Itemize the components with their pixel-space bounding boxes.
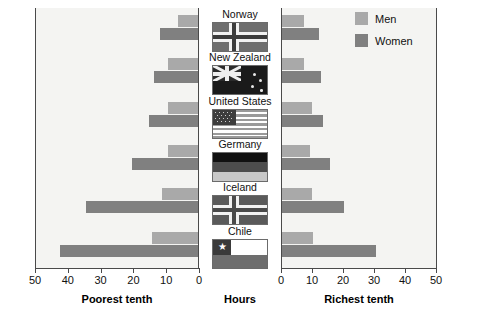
bar-row-chile-right xyxy=(282,225,436,268)
tick-left-20 xyxy=(133,268,134,273)
bar-women-new-zealand-right xyxy=(282,71,321,83)
bar-men-new-zealand-left xyxy=(168,58,198,70)
axis-title-poorest-tenth: Poorest tenth xyxy=(35,293,199,305)
country-block-germany: Germany xyxy=(199,138,281,182)
tick-right-0 xyxy=(281,268,282,273)
country-block-norway: Norway xyxy=(199,8,281,52)
bar-men-norway-right xyxy=(282,15,304,27)
bar-men-germany-right xyxy=(282,145,310,157)
bar-women-chile-left xyxy=(60,245,198,257)
legend-item-men: Men xyxy=(355,12,413,25)
bar-men-iceland-left xyxy=(162,188,198,200)
ticklabel-left-40: 40 xyxy=(53,274,83,286)
tick-right-30 xyxy=(374,268,375,273)
bar-men-chile-right xyxy=(282,232,313,244)
ticklabel-right-50: 50 xyxy=(421,274,451,286)
axis-line-left xyxy=(35,268,199,269)
bar-women-new-zealand-left xyxy=(154,71,198,83)
tick-left-40 xyxy=(68,268,69,273)
legend-item-women: Women xyxy=(355,34,413,47)
tick-left-30 xyxy=(101,268,102,273)
legend-swatch-women-icon xyxy=(355,34,368,47)
bar-row-iceland-left xyxy=(36,181,198,224)
bar-women-iceland-right xyxy=(282,201,344,213)
bar-row-united-states-left xyxy=(36,95,198,138)
tick-right-40 xyxy=(405,268,406,273)
bar-men-united-states-right xyxy=(282,102,312,114)
bar-women-germany-left xyxy=(132,158,198,170)
flag-iceland-icon xyxy=(212,195,268,225)
bar-row-chile-left xyxy=(36,225,198,268)
axis-title-richest-tenth: Richest tenth xyxy=(281,293,437,305)
bar-row-iceland-right xyxy=(282,181,436,224)
country-label-germany: Germany xyxy=(199,138,281,150)
bar-women-united-states-left xyxy=(149,115,198,127)
legend: Men Women xyxy=(355,12,413,56)
country-center-column: Norway New Zealand United States xyxy=(199,8,281,268)
tick-left-0 xyxy=(199,268,200,273)
ticklabel-left-50: 50 xyxy=(20,274,50,286)
tick-right-10 xyxy=(312,268,313,273)
bar-women-iceland-left xyxy=(86,201,198,213)
flag-new-zealand-icon xyxy=(212,65,268,95)
country-label-chile: Chile xyxy=(199,225,281,237)
bar-women-norway-right xyxy=(282,28,319,40)
chart-root: Norway New Zealand United States xyxy=(0,0,482,315)
flag-norway-icon xyxy=(212,22,268,52)
legend-swatch-men-icon xyxy=(355,12,368,25)
tick-left-10 xyxy=(166,268,167,273)
ticklabel-left-0: 0 xyxy=(184,274,214,286)
tick-left-50 xyxy=(35,268,36,273)
bar-row-germany-right xyxy=(282,138,436,181)
panel-poorest-tenth xyxy=(35,8,199,268)
country-block-new-zealand: New Zealand xyxy=(199,51,281,95)
bar-row-united-states-right xyxy=(282,95,436,138)
flag-germany-icon xyxy=(212,152,268,182)
flag-united-states-icon xyxy=(212,109,268,139)
ticklabel-right-20: 20 xyxy=(328,274,358,286)
bar-men-chile-left xyxy=(152,232,198,244)
bar-men-germany-left xyxy=(168,145,198,157)
bar-women-chile-right xyxy=(282,245,376,257)
axis-title-hours: Hours xyxy=(199,293,281,305)
ticklabel-left-10: 10 xyxy=(151,274,181,286)
legend-label-men: Men xyxy=(375,13,396,25)
bar-men-iceland-right xyxy=(282,188,312,200)
axis-line-right xyxy=(281,268,437,269)
ticklabel-right-30: 30 xyxy=(359,274,389,286)
country-label-iceland: Iceland xyxy=(199,181,281,193)
bar-row-germany-left xyxy=(36,138,198,181)
ticklabel-right-10: 10 xyxy=(297,274,327,286)
bar-women-norway-left xyxy=(160,28,198,40)
country-label-norway: Norway xyxy=(199,8,281,20)
bar-men-norway-left xyxy=(178,15,198,27)
bar-women-germany-right xyxy=(282,158,330,170)
ticklabel-left-30: 30 xyxy=(86,274,116,286)
country-label-united-states: United States xyxy=(199,95,281,107)
bar-men-new-zealand-right xyxy=(282,58,304,70)
ticklabel-left-20: 20 xyxy=(118,274,148,286)
flag-chile-icon: ★ xyxy=(212,239,268,269)
country-block-united-states: United States xyxy=(199,95,281,139)
country-label-new-zealand: New Zealand xyxy=(199,51,281,63)
bar-men-united-states-left xyxy=(168,102,198,114)
legend-label-women: Women xyxy=(375,35,413,47)
ticklabel-right-0: 0 xyxy=(266,274,296,286)
ticklabel-right-40: 40 xyxy=(390,274,420,286)
tick-right-20 xyxy=(343,268,344,273)
country-block-iceland: Iceland xyxy=(199,181,281,225)
bar-row-new-zealand-right xyxy=(282,51,436,94)
bar-row-new-zealand-left xyxy=(36,51,198,94)
country-block-chile: Chile ★ xyxy=(199,225,281,269)
tick-right-50 xyxy=(436,268,437,273)
bar-row-norway-left xyxy=(36,8,198,51)
bar-women-united-states-right xyxy=(282,115,323,127)
